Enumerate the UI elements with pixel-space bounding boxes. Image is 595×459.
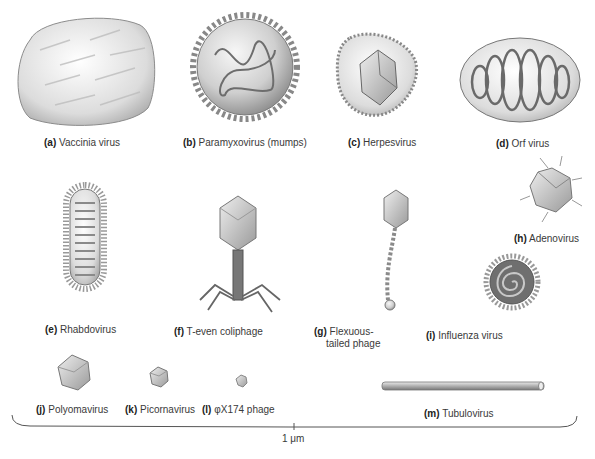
orf-virus-illustration <box>460 38 580 122</box>
label-k: (k) Picornavirus <box>125 404 195 416</box>
adenovirus-illustration <box>520 156 582 222</box>
herpesvirus-illustration <box>337 34 416 115</box>
label-m: (m) Tubulovirus <box>424 408 494 420</box>
label-a: (a) Vaccinia virus <box>44 137 120 149</box>
label-l: (l) φX174 phage <box>202 404 275 416</box>
label-f: (f) T-even coliphage <box>174 326 263 338</box>
phix174-phage-illustration <box>236 375 247 387</box>
label-b: (b) Paramyxovirus (mumps) <box>183 137 307 149</box>
influenza-virus-illustration <box>486 256 538 308</box>
flexuous-tailed-phage-illustration <box>384 190 408 310</box>
label-d: (d) Orf virus <box>496 138 549 150</box>
rhabdovirus-illustration <box>66 185 104 289</box>
picornavirus-illustration <box>150 367 168 387</box>
t-even-coliphage-illustration <box>200 196 280 312</box>
label-h: (h) Adenovirus <box>514 233 579 245</box>
scale-bar-label: 1 μm <box>282 433 304 445</box>
paramyxovirus-illustration <box>193 15 297 119</box>
label-j: (j) Polyomavirus <box>36 404 108 416</box>
virus-illustrations <box>0 0 595 459</box>
polyomavirus-illustration <box>58 355 90 390</box>
label-i: (i) Influenza virus <box>426 330 503 342</box>
label-e: (e) Rhabdovirus <box>45 324 116 336</box>
vaccinia-virus-illustration <box>18 18 155 125</box>
label-c: (c) Herpesvirus <box>348 137 416 149</box>
label-g: (g) Flexuous-tailed phage <box>314 326 381 350</box>
tubulovirus-illustration <box>382 382 544 390</box>
